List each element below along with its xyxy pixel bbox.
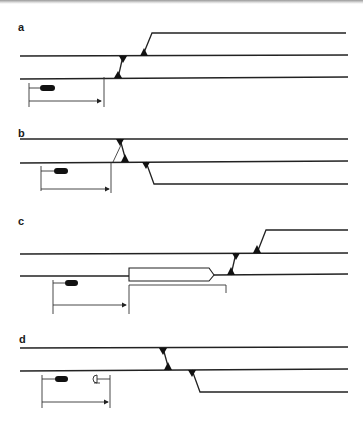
crossover-point-upper-icon: [116, 139, 124, 146]
panel-b: b: [18, 127, 348, 193]
panel-a: a: [18, 21, 348, 107]
track-upper: [20, 55, 348, 56]
track-lower: [20, 161, 348, 163]
turnout-branch-down: [146, 162, 348, 184]
train-icon: [55, 376, 68, 382]
crossover-point-lower-icon: [227, 267, 235, 275]
track-upper: [20, 253, 348, 254]
panel-c: c: [18, 215, 348, 314]
panel-d: d: [19, 333, 348, 408]
track-upper: [20, 347, 348, 348]
stop-signal-icon: [93, 375, 97, 383]
overlap-bracket: [129, 285, 226, 295]
train-icon: [40, 85, 55, 91]
track-lower: [20, 77, 348, 79]
turnout-branch-up: [143, 33, 346, 55]
crossover-point-lower-icon: [121, 154, 129, 162]
crossover-point-lower-icon: [114, 71, 122, 78]
panel-label-b: b: [18, 127, 25, 139]
panel-label-c: c: [18, 215, 24, 227]
crossover-point-upper-icon: [159, 348, 167, 355]
panel-label-d: d: [19, 333, 26, 345]
crossover-thin-line: [113, 145, 121, 162]
train-icon: [54, 168, 68, 174]
standing-train-icon: [129, 268, 214, 281]
train-icon: [65, 280, 78, 286]
turnout-point-icon: [140, 48, 148, 56]
turnout-branch-up: [257, 230, 348, 253]
crossover-point-upper-icon: [232, 253, 240, 260]
crossover-point-upper-icon: [119, 56, 127, 63]
turnout-branch-down: [192, 370, 348, 392]
panel-label-a: a: [18, 21, 25, 33]
track-lower: [20, 369, 348, 371]
crossover-point-lower-icon: [164, 362, 172, 370]
